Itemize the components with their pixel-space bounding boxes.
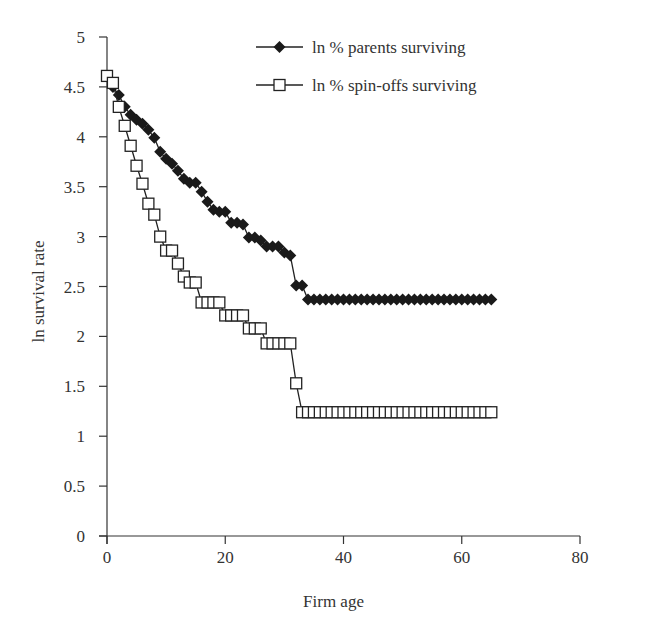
spinoffs-point <box>285 338 296 349</box>
spinoffs-point <box>190 277 201 288</box>
x-tick-label: 0 <box>103 548 112 567</box>
spinoffs-point <box>107 77 118 88</box>
y-axis-title: ln survival rate <box>29 241 48 343</box>
spinoffs-point <box>255 323 266 334</box>
series-parents <box>101 70 497 306</box>
series-layer <box>101 70 497 418</box>
series-spinoffs <box>102 70 497 417</box>
filled-diamond-icon <box>274 41 286 53</box>
open-square-icon <box>274 80 285 91</box>
y-ticks: 00.511.522.533.544.55 <box>64 28 107 546</box>
x-tick-label: 60 <box>453 548 470 567</box>
y-tick-label: 1.5 <box>64 377 85 396</box>
spinoffs-point <box>172 258 183 269</box>
spinoffs-point <box>113 101 124 112</box>
x-tick-label: 40 <box>335 548 352 567</box>
x-ticks: 020406080 <box>103 536 589 567</box>
spinoffs-point <box>291 378 302 389</box>
y-tick-label: 0 <box>77 527 86 546</box>
spinoffs-point <box>137 178 148 189</box>
spinoffs-point <box>237 310 248 321</box>
legend-item-spinoffs: ln % spin-offs surviving <box>256 76 477 95</box>
y-tick-label: 4 <box>77 128 86 147</box>
legend-label-parents: ln % parents surviving <box>312 38 466 57</box>
x-tick-label: 20 <box>217 548 234 567</box>
y-tick-label: 2 <box>77 327 86 346</box>
parents-point <box>196 186 208 198</box>
legend-item-parents: ln % parents surviving <box>256 38 466 57</box>
x-tick-label: 80 <box>572 548 589 567</box>
spinoffs-point <box>155 231 166 242</box>
y-tick-label: 4.5 <box>64 78 85 97</box>
spinoffs-point <box>119 120 130 131</box>
survival-rate-chart: 00.511.522.533.544.55 020406080 Firm age… <box>0 0 651 633</box>
legend: ln % parents surviving ln % spin-offs su… <box>256 38 477 95</box>
y-tick-label: 3 <box>77 228 86 247</box>
spinoffs-point <box>486 407 497 418</box>
y-tick-label: 0.5 <box>64 477 85 496</box>
spinoffs-point <box>125 140 136 151</box>
y-tick-label: 1 <box>77 427 86 446</box>
parents-line <box>107 76 491 300</box>
spinoffs-point <box>131 160 142 171</box>
spinoffs-point <box>143 198 154 209</box>
spinoffs-line <box>107 76 491 412</box>
spinoffs-point <box>214 297 225 308</box>
legend-label-spinoffs: ln % spin-offs surviving <box>312 76 477 95</box>
y-tick-label: 5 <box>77 28 86 47</box>
y-tick-label: 3.5 <box>64 178 85 197</box>
spinoffs-point <box>149 209 160 220</box>
y-tick-label: 2.5 <box>64 278 85 297</box>
x-axis-title: Firm age <box>303 592 364 611</box>
spinoffs-point <box>167 245 178 256</box>
